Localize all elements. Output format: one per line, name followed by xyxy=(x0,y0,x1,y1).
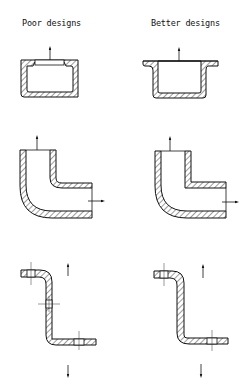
poor-z-bracket-section xyxy=(21,262,96,376)
design-comparison-diagram xyxy=(0,0,244,389)
poor-box-section xyxy=(21,48,78,97)
better-z-bracket-section xyxy=(154,263,228,376)
better-elbow-section xyxy=(155,138,237,218)
poor-elbow-section xyxy=(20,137,103,218)
better-box-section xyxy=(143,49,218,98)
